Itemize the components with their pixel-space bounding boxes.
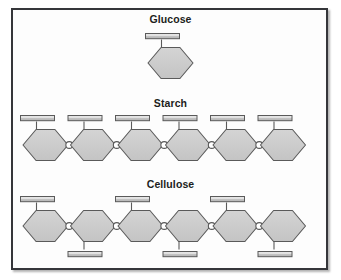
- section-title-glucose: Glucose: [0, 13, 341, 25]
- figure-frame: [11, 8, 328, 270]
- section-title-starch: Starch: [0, 97, 341, 109]
- glucose-starch-cellulose-figure: Glucose Starch Cellulose: [0, 0, 341, 280]
- section-title-cellulose: Cellulose: [0, 178, 341, 190]
